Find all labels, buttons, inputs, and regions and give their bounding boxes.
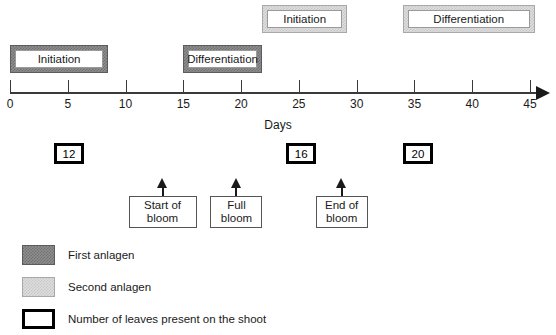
axis-title: Days <box>0 118 556 132</box>
axis-tick-label: 10 <box>111 97 141 111</box>
legend-label: First anlagen <box>68 249 134 261</box>
legend-swatch-second <box>22 277 55 297</box>
leaf-count-box: 16 <box>286 143 316 164</box>
axis-tick <box>530 80 531 93</box>
axis-tick <box>472 80 473 93</box>
leaf-count-box: 20 <box>403 143 433 164</box>
legend-label: Second anlagen <box>68 281 151 293</box>
event-arrow-stem <box>162 187 164 196</box>
event-arrow-stem <box>235 187 237 196</box>
event-label-line1: End of <box>325 199 358 213</box>
event-callout-box: End ofbloom <box>316 196 368 228</box>
event-label-line2: bloom <box>326 212 357 226</box>
axis-tick <box>299 80 300 93</box>
legend-label: Number of leaves present on the shoot <box>68 313 266 325</box>
axis-tick-label: 5 <box>53 97 83 111</box>
phase-label: Initiation <box>15 50 103 68</box>
phase-label: Differentiation <box>188 50 257 68</box>
axis-tick-label: 40 <box>457 97 487 111</box>
phase-bar-first-initiation: Initiation <box>10 45 108 73</box>
event-label-line2: bloom <box>147 212 178 226</box>
event-label-line2: bloom <box>221 212 252 226</box>
axis-tick-label: 25 <box>284 97 314 111</box>
axis-tick-label: 45 <box>515 97 545 111</box>
axis-tick <box>68 80 69 93</box>
event-callout-box: Start ofbloom <box>129 196 197 228</box>
axis-tick-label: 20 <box>226 97 256 111</box>
axis-tick <box>10 80 11 93</box>
axis-tick <box>126 80 127 93</box>
axis-tick <box>414 80 415 93</box>
timeline-axis-line <box>10 92 538 94</box>
phase-label: Initiation <box>267 10 343 28</box>
event-label-line1: Full <box>227 199 246 213</box>
axis-tick-label: 15 <box>168 97 198 111</box>
axis-tick <box>183 80 184 93</box>
axis-tick <box>241 80 242 93</box>
axis-tick-label: 30 <box>342 97 372 111</box>
event-label-line1: Start of <box>144 199 181 213</box>
timeline-diagram: InitiationDifferentiationInitiationDiffe… <box>0 0 556 335</box>
legend-swatch-outline <box>22 309 55 329</box>
event-arrow-stem <box>341 187 343 196</box>
legend-swatch-first <box>22 245 55 265</box>
axis-tick <box>357 80 358 93</box>
axis-tick-label: 0 <box>0 97 25 111</box>
leaf-count-box: 12 <box>54 143 84 164</box>
phase-bar-second-differentiation: Differentiation <box>403 5 535 33</box>
phase-label: Differentiation <box>408 10 530 28</box>
axis-tick-label: 35 <box>399 97 429 111</box>
event-callout-box: Fullbloom <box>210 196 262 228</box>
phase-bar-second-initiation: Initiation <box>262 5 348 33</box>
phase-bar-first-differentiation: Differentiation <box>183 45 262 73</box>
